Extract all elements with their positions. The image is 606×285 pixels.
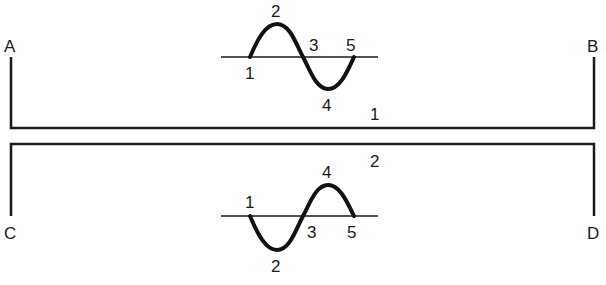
bottom-wave-curve	[250, 185, 354, 250]
top-wave-point-4: 4	[322, 96, 331, 115]
top-wave-point-1: 1	[245, 64, 254, 83]
terminal-label-d: D	[587, 224, 599, 243]
bottom-wave-point-5: 5	[347, 223, 356, 242]
line-1-wire	[11, 57, 594, 128]
bottom-wave-point-4: 4	[322, 163, 331, 182]
line-1-label: 1	[370, 105, 379, 124]
top-wave-point-2: 2	[271, 2, 280, 21]
bottom-wave-point-3: 3	[307, 223, 316, 242]
transmission-line-diagram: A B C D 1 2 1 2 3 4 5 1 2 3 4 5	[0, 0, 606, 285]
bottom-wave: 1 2 3 4 5	[221, 163, 378, 276]
line-2-wire	[11, 144, 594, 216]
line-2	[11, 144, 594, 216]
terminal-label-c: C	[4, 224, 16, 243]
terminal-label-a: A	[4, 37, 16, 56]
line-1	[11, 57, 594, 128]
top-wave: 1 2 3 4 5	[221, 2, 378, 115]
line-2-label: 2	[370, 152, 379, 171]
bottom-wave-point-1: 1	[245, 193, 254, 212]
terminal-label-b: B	[587, 37, 598, 56]
top-wave-point-3: 3	[309, 36, 318, 55]
bottom-wave-point-2: 2	[271, 257, 280, 276]
top-wave-point-5: 5	[346, 36, 355, 55]
